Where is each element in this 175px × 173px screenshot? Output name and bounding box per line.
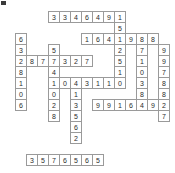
grid-cell[interactable]: 1 xyxy=(103,77,115,89)
grid-cell[interactable]: 9 xyxy=(147,99,159,111)
grid-cell[interactable]: 5 xyxy=(92,154,104,166)
grid-cell[interactable]: 6 xyxy=(15,99,27,111)
grid-cell[interactable]: 7 xyxy=(81,55,93,67)
grid-cell[interactable]: 0 xyxy=(114,77,126,89)
grid-cell[interactable]: 7 xyxy=(158,110,170,122)
grid-cell[interactable]: 2 xyxy=(70,132,82,144)
number-crossword-puzzle: 3346491516419886328106574102887327251071… xyxy=(0,0,175,173)
puzzle-grid: 3346491516419886328106574102887327251071… xyxy=(0,0,175,173)
grid-cell[interactable]: 8 xyxy=(48,110,60,122)
grid-cell[interactable]: 7 xyxy=(37,55,49,67)
